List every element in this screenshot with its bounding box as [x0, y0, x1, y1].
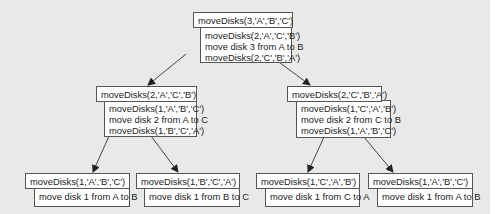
step-text: move disk 1 from B to C: [149, 191, 235, 202]
node-mid-right-call: moveDisks(2,'C','B','A'): [287, 86, 382, 102]
edge-mid-left-to-leaf-2: [151, 136, 178, 172]
step-text: move disk 2 from A to C: [109, 114, 192, 125]
step-text: move disk 1 from C to A: [270, 191, 355, 202]
step-text: moveDisks(2,'C','B','A'): [205, 52, 287, 63]
step-text: moveDisks(1,'A','B','C'): [301, 125, 386, 136]
node-mid-right-steps: moveDisks(1,'C','A','B') move disk 2 fro…: [296, 100, 391, 138]
step-text: move disk 2 from C to B: [301, 114, 386, 125]
step-text: move disk 3 from A to B: [205, 41, 287, 52]
node-mid-left-steps: moveDisks(1,'A','B','C') move disk 2 fro…: [104, 100, 197, 137]
step-text: moveDisks(1,'C','A','B'): [301, 103, 386, 114]
node-leaf-3-steps: move disk 1 from C to A: [265, 187, 360, 207]
edge-root-to-mid-left: [148, 54, 186, 85]
edge-mid-left-to-leaf-1: [93, 136, 109, 172]
node-leaf-1-steps: move disk 1 from A to B: [34, 187, 130, 207]
step-text: moveDisks(2,'A','C','B'): [205, 30, 287, 41]
node-leaf-2-call: moveDisks(1,'B','C','A'): [136, 173, 240, 189]
step-text: move disk 1 from A to B: [39, 191, 125, 202]
step-text: move disk 1 from A to B: [382, 191, 468, 202]
step-text: moveDisks(1,'B','C','A'): [109, 125, 192, 136]
node-leaf-3-call: moveDisks(1,'C','A','B'): [256, 173, 360, 189]
node-root-steps: moveDisks(2,'A','C','B') move disk 3 fro…: [200, 27, 292, 63]
node-leaf-4-steps: move disk 1 from A to B: [377, 187, 473, 207]
node-leaf-2-steps: move disk 1 from B to C: [144, 187, 240, 207]
node-leaf-4-call: moveDisks(1,'A','B','C'): [368, 173, 473, 189]
edge-mid-right-to-leaf-4: [364, 137, 393, 172]
node-leaf-1-call: moveDisks(1,'A','B','C'): [25, 173, 130, 189]
step-text: moveDisks(1,'A','B','C'): [109, 103, 192, 114]
edge-mid-right-to-leaf-3: [308, 137, 324, 172]
node-root-call: moveDisks(3,'A','B','C'): [193, 12, 293, 28]
node-mid-left-call: moveDisks(2,'A','C','B'): [96, 86, 197, 102]
